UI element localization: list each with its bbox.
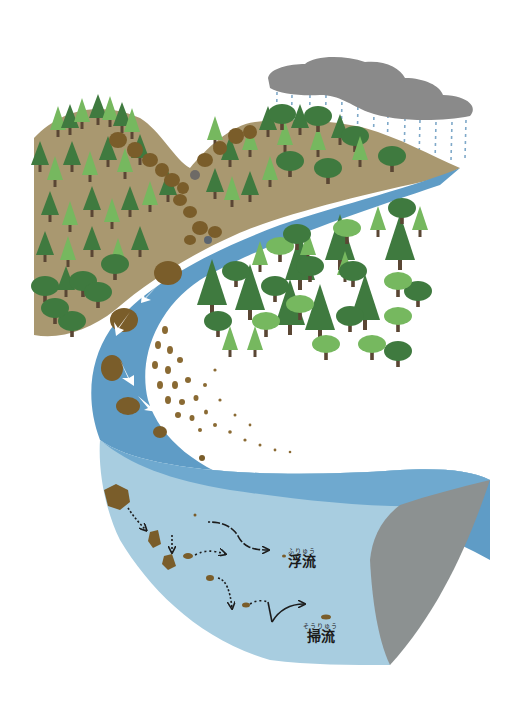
gravel-bar (152, 326, 291, 453)
bed-load-text: 掃流 (303, 629, 338, 644)
suspended-load-text: 浮流 (288, 554, 316, 569)
river-sediment-diagram (0, 0, 519, 707)
suspended-load-label: ふりゅう 浮流 (288, 547, 316, 569)
bed-load-label: そうりゅう 掃流 (303, 622, 338, 644)
